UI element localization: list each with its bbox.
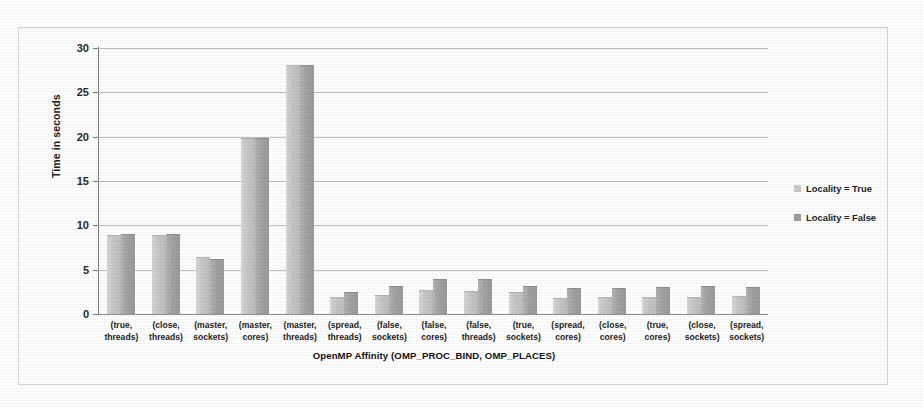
bar[interactable] bbox=[478, 279, 492, 314]
bar[interactable] bbox=[121, 234, 135, 314]
x-axis-title: OpenMP Affinity (OMP_PROC_BIND, OMP_PLAC… bbox=[99, 350, 769, 361]
y-tick-label: 30 bbox=[77, 42, 89, 54]
bar[interactable] bbox=[732, 296, 746, 314]
y-tick-label: 20 bbox=[77, 131, 89, 143]
bar-group[interactable] bbox=[144, 48, 189, 314]
bar[interactable] bbox=[523, 286, 537, 314]
bar[interactable] bbox=[656, 287, 670, 314]
y-tick-label: 15 bbox=[77, 175, 89, 187]
y-tick-label: 5 bbox=[83, 264, 89, 276]
bar[interactable] bbox=[701, 286, 715, 314]
y-axis-title: Time in seconds bbox=[50, 94, 62, 178]
x-axis-tick-label: (false,cores) bbox=[412, 320, 457, 343]
bar[interactable] bbox=[419, 290, 433, 314]
legend-swatch-icon bbox=[794, 185, 801, 192]
y-tick-mark bbox=[93, 225, 98, 226]
x-axis-tick-label: (master,cores) bbox=[233, 320, 278, 343]
bar-group[interactable] bbox=[545, 48, 590, 314]
bar-group[interactable] bbox=[679, 48, 724, 314]
x-axis-tick-label: (close,sockets) bbox=[680, 320, 725, 343]
bar[interactable] bbox=[509, 292, 523, 314]
bar[interactable] bbox=[107, 235, 121, 314]
bar[interactable] bbox=[300, 65, 314, 314]
bar[interactable] bbox=[166, 234, 180, 314]
x-axis-tick-label: (true,threads) bbox=[99, 320, 144, 343]
bar[interactable] bbox=[375, 295, 389, 314]
bar[interactable] bbox=[344, 292, 358, 314]
y-tick-label: 10 bbox=[77, 219, 89, 231]
bar-group[interactable] bbox=[99, 48, 144, 314]
bar-group[interactable] bbox=[277, 48, 322, 314]
x-axis-tick-label: (spread,threads) bbox=[322, 320, 367, 343]
y-tick-mark bbox=[93, 270, 98, 271]
x-axis-tick-label: (false,threads) bbox=[456, 320, 501, 343]
bar-group[interactable] bbox=[500, 48, 545, 314]
bar-group[interactable] bbox=[590, 48, 635, 314]
bars-layer bbox=[99, 48, 768, 314]
x-axis-tick-label: (true,cores) bbox=[635, 320, 680, 343]
bar[interactable] bbox=[255, 138, 269, 314]
y-tick-mark bbox=[93, 314, 98, 315]
chart-frame: Time in seconds 051015202530 (true,threa… bbox=[18, 27, 888, 385]
bar-group[interactable] bbox=[322, 48, 367, 314]
bar-group[interactable] bbox=[634, 48, 679, 314]
bar[interactable] bbox=[286, 65, 300, 314]
bar[interactable] bbox=[746, 287, 760, 314]
bar[interactable] bbox=[598, 297, 612, 314]
x-axis-tick-label: (true,sockets) bbox=[501, 320, 546, 343]
x-axis-tick-label: (spread,cores) bbox=[546, 320, 591, 343]
plot-area: 051015202530 bbox=[98, 48, 768, 314]
bar[interactable] bbox=[210, 259, 224, 314]
bar-group[interactable] bbox=[456, 48, 501, 314]
bar[interactable] bbox=[464, 291, 478, 314]
legend-swatch-icon bbox=[794, 214, 801, 221]
bar[interactable] bbox=[241, 138, 255, 314]
bar[interactable] bbox=[196, 257, 210, 314]
x-axis-tick-label: (close,cores) bbox=[590, 320, 635, 343]
bar[interactable] bbox=[612, 288, 626, 314]
bar[interactable] bbox=[642, 297, 656, 314]
y-tick-label: 0 bbox=[83, 308, 89, 320]
bar-group[interactable] bbox=[367, 48, 412, 314]
bar-group[interactable] bbox=[723, 48, 768, 314]
bar[interactable] bbox=[687, 297, 701, 314]
y-tick-mark bbox=[93, 48, 98, 49]
x-axis-tick-labels: (true,threads)(close,threads)(master,soc… bbox=[99, 320, 769, 343]
x-axis-tick-label: (false,sockets) bbox=[367, 320, 412, 343]
legend-item[interactable]: Locality = False bbox=[794, 212, 904, 223]
x-axis-tick-label: (spread,sockets) bbox=[724, 320, 769, 343]
y-tick-mark bbox=[93, 137, 98, 138]
legend-label: Locality = True bbox=[806, 183, 872, 194]
bar[interactable] bbox=[330, 297, 344, 314]
x-axis-tick-label: (close,threads) bbox=[144, 320, 189, 343]
bar-group[interactable] bbox=[411, 48, 456, 314]
y-tick-mark bbox=[93, 92, 98, 93]
x-axis-tick-label: (master,sockets) bbox=[188, 320, 233, 343]
gridline bbox=[98, 314, 768, 315]
bar[interactable] bbox=[152, 235, 166, 314]
bar[interactable] bbox=[553, 298, 567, 314]
bar-group[interactable] bbox=[233, 48, 278, 314]
y-tick-label: 25 bbox=[77, 86, 89, 98]
bar[interactable] bbox=[389, 286, 403, 314]
bar[interactable] bbox=[567, 288, 581, 314]
legend-label: Locality = False bbox=[806, 212, 876, 223]
legend-item[interactable]: Locality = True bbox=[794, 183, 904, 194]
bar[interactable] bbox=[433, 279, 447, 314]
x-axis-tick-label: (master,threads) bbox=[278, 320, 323, 343]
y-tick-mark bbox=[93, 181, 98, 182]
chart-legend: Locality = TrueLocality = False bbox=[794, 183, 904, 241]
bar-group[interactable] bbox=[188, 48, 233, 314]
